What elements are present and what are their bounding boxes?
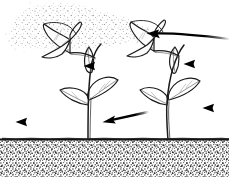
soil-layer — [0, 138, 229, 177]
plant-spray-diagram — [0, 0, 229, 177]
ground-line-texture — [2, 138, 229, 139]
figure-canvas: Seedlings being sprayed, arrows indicati… — [0, 0, 229, 177]
soil-band-overlay — [0, 140, 229, 177]
